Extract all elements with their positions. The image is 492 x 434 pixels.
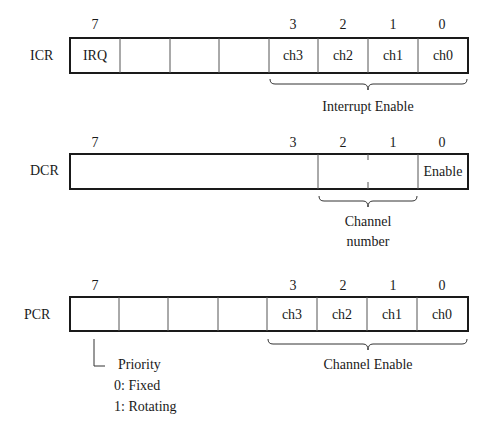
bit-label: 7 <box>92 135 99 150</box>
cell-ch3: ch3 <box>283 48 303 63</box>
brace-label-line1: Channel <box>345 214 392 229</box>
priority-pointer-icon <box>94 339 105 366</box>
bit-label: 0 <box>439 278 446 293</box>
brace-label: Interrupt Enable <box>322 99 413 114</box>
bit-label: 1 <box>390 135 397 150</box>
cell-ch0: ch0 <box>432 307 452 322</box>
bit-label: 2 <box>340 278 347 293</box>
bit-label: 0 <box>439 17 446 32</box>
register-diagram: ICR 7 3 2 1 0 IRQ ch3 ch2 ch1 ch0 Interr… <box>0 0 492 434</box>
priority-title: Priority <box>118 357 161 372</box>
bit-label: 7 <box>92 278 99 293</box>
bit-label: 1 <box>390 278 397 293</box>
cell-ch0: ch0 <box>433 48 453 63</box>
register-box <box>70 297 468 331</box>
priority-option-rotating: 1: Rotating <box>114 399 177 414</box>
dcr-register: DCR 7 3 2 1 0 Enable Channel number <box>30 135 468 249</box>
bit-label: 3 <box>290 17 297 32</box>
bit-label: 3 <box>290 278 297 293</box>
register-name: PCR <box>24 307 51 322</box>
cell-ch1: ch1 <box>383 48 403 63</box>
register-box <box>70 154 468 189</box>
cell-irq: IRQ <box>83 48 107 63</box>
brace-icon <box>270 79 467 90</box>
register-name: ICR <box>30 48 54 63</box>
brace-label: Channel Enable <box>323 357 412 372</box>
bit-label: 7 <box>92 17 99 32</box>
brace-icon <box>268 339 467 350</box>
icr-register: ICR 7 3 2 1 0 IRQ ch3 ch2 ch1 ch0 Interr… <box>30 17 468 114</box>
brace-icon <box>319 196 417 207</box>
priority-option-fixed: 0: Fixed <box>114 378 160 393</box>
brace-label-line2: number <box>347 234 390 249</box>
bit-label: 3 <box>290 135 297 150</box>
cell-ch3: ch3 <box>282 307 302 322</box>
cell-ch2: ch2 <box>332 307 352 322</box>
pcr-register: PCR 7 3 2 1 0 ch3 ch2 ch1 ch0 Channel En… <box>24 278 468 414</box>
cell-ch2: ch2 <box>333 48 353 63</box>
bit-label: 0 <box>439 135 446 150</box>
bit-label: 1 <box>390 17 397 32</box>
cell-ch1: ch1 <box>382 307 402 322</box>
bit-label: 2 <box>340 17 347 32</box>
bit-label: 2 <box>340 135 347 150</box>
cell-enable: Enable <box>424 164 463 179</box>
register-name: DCR <box>30 163 59 178</box>
